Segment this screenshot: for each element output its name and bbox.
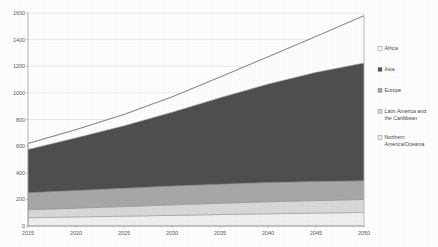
legend-item-0[interactable]: Africa xyxy=(378,45,398,51)
legend-label-4-line-0: Northern xyxy=(385,134,405,140)
chart-canvas: 02004006008001000120014001600 2015202020… xyxy=(0,0,438,247)
x-tick-label-2040: 2040 xyxy=(262,230,274,236)
x-axis-tick-labels: 20152020202520302035204020452050 xyxy=(22,226,370,236)
x-tick-label-2045: 2045 xyxy=(310,230,322,236)
x-tick-label-2020: 2020 xyxy=(70,230,82,236)
legend-label-2-line-0: Europe xyxy=(385,87,402,93)
legend-item-2[interactable]: Europe xyxy=(378,87,401,93)
y-tick-label-200: 200 xyxy=(16,196,25,202)
y-axis-tick-labels: 02004006008001000120014001600 xyxy=(13,10,28,229)
legend-item-3[interactable]: Latin America andthe Caribbean xyxy=(378,108,426,121)
legend-item-4[interactable]: NorthernAmerica/Oceania xyxy=(378,134,424,147)
legend-label-1-line-0: Asia xyxy=(385,66,395,72)
y-tick-label-0: 0 xyxy=(22,223,25,229)
y-tick-label-1400: 1400 xyxy=(13,37,25,43)
x-tick-label-2035: 2035 xyxy=(214,230,226,236)
area-series-3 xyxy=(28,63,364,193)
legend-label-3-line-1: the Caribbean xyxy=(385,115,418,121)
x-tick-label-2015: 2015 xyxy=(22,230,34,236)
x-tick-label-2030: 2030 xyxy=(166,230,178,236)
legend-item-1[interactable]: Asia xyxy=(378,66,395,72)
y-tick-label-1600: 1600 xyxy=(13,10,25,16)
area-series-group xyxy=(28,16,364,226)
legend-swatch-icon-2 xyxy=(378,88,382,92)
y-tick-label-400: 400 xyxy=(16,170,25,176)
legend-swatch-icon-3 xyxy=(378,109,382,113)
legend-label-3-line-0: Latin America and xyxy=(385,108,427,114)
legend-swatch-icon-1 xyxy=(378,67,382,71)
y-tick-label-600: 600 xyxy=(16,143,25,149)
x-tick-label-2050: 2050 xyxy=(358,230,370,236)
x-tick-label-2025: 2025 xyxy=(118,230,130,236)
y-tick-label-800: 800 xyxy=(16,117,25,123)
legend-label-0-line-0: Africa xyxy=(385,45,398,51)
chart-legend[interactable]: AfricaAsiaEuropeLatin America andthe Car… xyxy=(378,45,426,147)
legend-swatch-icon-0 xyxy=(378,46,382,50)
legend-swatch-icon-4 xyxy=(378,135,382,139)
stacked-area-chart: 02004006008001000120014001600 2015202020… xyxy=(0,0,438,247)
y-tick-label-1000: 1000 xyxy=(13,90,25,96)
legend-label-4-line-1: America/Oceania xyxy=(385,141,425,147)
y-tick-label-1200: 1200 xyxy=(13,63,25,69)
